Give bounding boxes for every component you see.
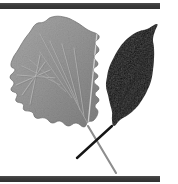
top-rule [0, 3, 160, 9]
leaf-specimen-figure: Two leaves arranged with crossing petiol… [0, 0, 178, 184]
figure-canvas [0, 0, 178, 184]
bottom-rule [0, 176, 160, 182]
